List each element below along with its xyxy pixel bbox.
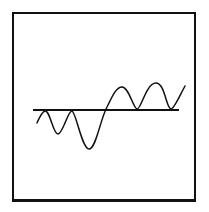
wave-curve — [37, 83, 185, 149]
wave-diagram — [0, 0, 209, 212]
